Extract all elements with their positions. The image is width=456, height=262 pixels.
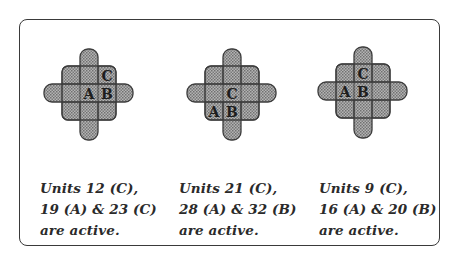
caption-panel-1: Units 12 (C), 19 (A) & 23 (C) are active… xyxy=(40,178,157,241)
cross-grid-shape: A B C xyxy=(44,49,134,141)
caption-line: are active. xyxy=(40,220,157,241)
caption-panel-3: Units 9 (C), 16 (A) & 20 (B) are active. xyxy=(319,178,437,241)
cell-label-a: A xyxy=(339,84,352,100)
cross-grid-shape: C A B xyxy=(187,49,277,141)
caption-line: 19 (A) & 23 (C) xyxy=(40,199,157,220)
caption-line: are active. xyxy=(319,220,437,241)
cell-label-c: C xyxy=(357,66,368,82)
unit-grid-1: A B C xyxy=(44,49,134,141)
unit-grid-2: C A B xyxy=(187,49,277,141)
cell-label-b: B xyxy=(101,86,113,102)
caption-line: 28 (A) & 32 (B) xyxy=(179,199,297,220)
cell-label-b: B xyxy=(226,104,238,120)
cell-label-c: C xyxy=(101,68,112,84)
caption-panel-2: Units 21 (C), 28 (A) & 32 (B) are active… xyxy=(179,178,297,241)
cell-label-b: B xyxy=(357,84,369,100)
caption-line: 16 (A) & 20 (B) xyxy=(319,199,437,220)
cell-label-a: A xyxy=(208,104,221,120)
unit-grid-3: C A B xyxy=(318,47,408,139)
caption-line: are active. xyxy=(179,220,297,241)
cross-grid-shape: C A B xyxy=(318,47,408,139)
caption-line: Units 21 (C), xyxy=(179,178,297,199)
cell-label-c: C xyxy=(226,86,237,102)
caption-line: Units 9 (C), xyxy=(319,178,437,199)
cell-label-a: A xyxy=(83,86,96,102)
caption-line: Units 12 (C), xyxy=(40,178,157,199)
